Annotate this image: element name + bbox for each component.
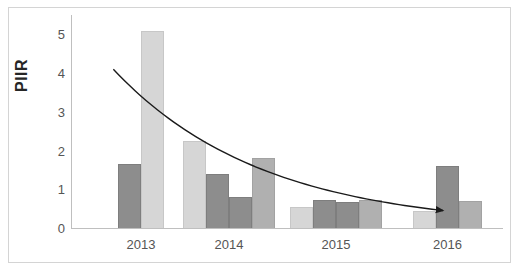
bar-2013-0 [118, 164, 141, 228]
bar-2014-1 [206, 174, 229, 228]
y-axis-tick-labels: 012345 [33, 0, 65, 250]
bar-2015-0 [290, 207, 313, 228]
x-axis-line [71, 228, 503, 229]
bar-2013-1 [141, 31, 164, 229]
x-axis-tick-label-2013: 2013 [111, 238, 171, 251]
bar-2014-2 [229, 197, 252, 228]
x-axis-tick-label-2015: 2015 [306, 238, 366, 251]
bar-2014-0 [183, 141, 206, 228]
y-axis-tick-label: 5 [37, 28, 65, 41]
chart-figure: PIIR 012345 2013201420152016 [0, 0, 521, 272]
y-axis-title: PIIR [13, 59, 31, 92]
bar-2016-0 [413, 211, 436, 228]
x-axis-tick-label-2014: 2014 [199, 238, 259, 251]
y-axis-tick-label: 3 [37, 106, 65, 119]
bar-2015-2 [336, 202, 359, 228]
x-axis-tick-label-2016: 2016 [418, 238, 478, 251]
bar-2015-1 [313, 200, 336, 228]
y-axis-tick-label: 0 [37, 222, 65, 235]
bar-2015-3 [359, 200, 382, 228]
bars-layer [71, 15, 503, 228]
bar-2014-3 [252, 158, 275, 228]
y-axis-tick-label: 2 [37, 145, 65, 158]
y-axis-tick-label: 1 [37, 183, 65, 196]
y-axis-tick-label: 4 [37, 67, 65, 80]
bar-2016-2 [459, 201, 482, 228]
bar-2016-1 [436, 166, 459, 228]
